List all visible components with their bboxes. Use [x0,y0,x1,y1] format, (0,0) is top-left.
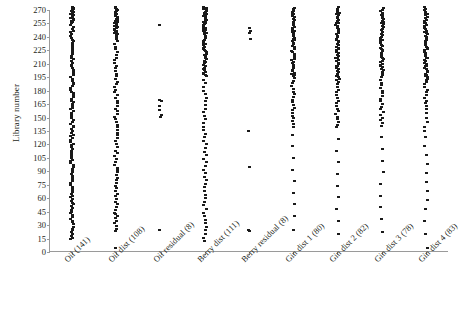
data-point [292,32,295,34]
data-point [71,175,74,177]
y-tick-label: 75 [16,181,46,190]
data-point [71,80,74,82]
data-point [114,46,117,48]
data-point [69,196,72,198]
data-point [116,169,119,171]
data-point [115,75,118,77]
data-point [70,153,73,155]
data-point [70,209,73,211]
data-point [115,198,118,200]
data-point [204,183,207,185]
data-point [382,23,385,25]
data-point [202,204,205,206]
data-point [71,103,74,105]
data-point [71,189,74,191]
data-point [70,155,73,157]
data-point [116,33,119,35]
data-point [116,124,119,126]
data-point [116,102,119,104]
data-point [293,180,296,182]
data-point [337,110,340,112]
y-tick-label: 105 [16,154,46,163]
data-point [71,171,74,173]
data-point [71,44,74,46]
data-point [114,209,117,211]
data-point [293,77,296,79]
data-point [71,78,74,80]
y-tick-mark [47,131,50,132]
data-point [382,171,385,173]
data-point [426,190,429,192]
data-point [379,39,382,41]
data-point [116,152,119,154]
y-tick-label: 30 [16,221,46,230]
data-point [116,177,119,179]
data-point [292,126,295,128]
data-point [116,203,119,205]
data-point [69,238,72,240]
data-point [335,150,338,152]
data-point [425,108,428,110]
data-point [380,76,383,78]
data-point [337,14,340,16]
data-point [69,141,72,143]
data-point [71,195,74,197]
data-point [205,97,208,99]
data-point [292,65,295,67]
data-point [381,74,384,76]
data-point [113,155,116,157]
data-point [114,70,117,72]
data-point [336,25,339,27]
data-point [291,112,294,114]
data-point [248,32,251,34]
y-tick-mark [47,23,50,24]
data-point [426,163,429,165]
data-point [69,212,72,214]
data-point [116,81,119,83]
data-point [116,110,119,112]
data-point [202,86,205,88]
data-point [338,78,341,80]
data-point [71,186,74,188]
data-point [204,229,207,231]
data-point [381,103,384,105]
data-point [70,200,73,202]
data-point [71,202,74,204]
data-point [336,108,339,110]
data-point [204,165,207,167]
data-point [204,233,207,235]
data-point [292,123,295,125]
data-point [72,83,75,85]
data-point [379,61,382,63]
data-point [116,100,119,102]
data-point [425,154,428,156]
data-point [69,108,72,110]
data-point [292,117,295,119]
data-point [293,16,296,18]
data-point [336,86,339,88]
data-point [115,65,118,67]
data-point [379,98,382,100]
y-tick-mark [47,171,50,172]
data-point [293,19,296,21]
data-point [72,71,75,73]
data-point [114,161,117,163]
data-point [115,54,118,56]
data-point [72,164,75,166]
data-point [204,104,207,106]
data-point [425,100,428,102]
data-point [116,167,119,169]
data-point [337,63,340,65]
data-point [72,58,75,60]
data-point [70,64,73,66]
y-tick-label: 225 [16,46,46,55]
data-point [423,20,426,22]
data-point [424,17,427,19]
data-point [115,182,118,184]
data-point [202,129,205,131]
data-point [72,69,75,71]
data-point [425,39,428,41]
data-point [335,91,338,93]
data-point [202,158,205,160]
data-point [293,215,296,217]
